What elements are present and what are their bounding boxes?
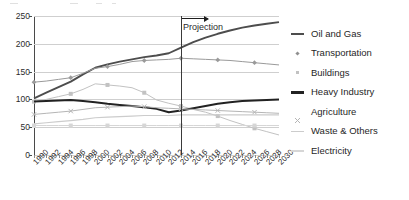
- y-tick-mark: [29, 16, 32, 17]
- series-line: [34, 106, 279, 114]
- y-tick-mark: [29, 99, 32, 100]
- legend-item-label: Electricity: [311, 146, 352, 156]
- y-tick-mark: [29, 155, 32, 156]
- legend-item-oil-and-gas[interactable]: Oil and Gas: [291, 24, 409, 44]
- series-marker: [68, 75, 73, 80]
- series-marker: [253, 124, 257, 128]
- legend-item-label: Transportation: [311, 48, 372, 58]
- y-tick-label: 50: [4, 123, 30, 131]
- y-tick-label: 0: [4, 151, 30, 159]
- legend-item-label: Buildings: [311, 68, 350, 78]
- y-axis-labels: 050100150200250: [0, 0, 30, 175]
- legend-swatch-icon: [291, 107, 304, 117]
- projection-arrow-icon: [182, 18, 208, 19]
- series-marker: [32, 80, 37, 85]
- series-marker: [69, 92, 73, 96]
- legend-item-transportation[interactable]: Transportation: [291, 44, 409, 64]
- legend-swatch-icon: [291, 48, 304, 58]
- series-marker: [142, 91, 146, 95]
- legend-item-agriculture[interactable]: Agriculture: [291, 102, 409, 122]
- series-marker: [216, 124, 220, 128]
- y-tick-mark: [29, 72, 32, 73]
- series-line: [34, 115, 279, 124]
- legend-swatch-icon: [291, 29, 304, 39]
- series-marker: [142, 124, 146, 128]
- legend-item-label: Waste & Others: [311, 126, 378, 136]
- top-crop-artifact: [0, 0, 409, 7]
- projection-divider: [181, 16, 182, 156]
- series-marker: [106, 124, 110, 128]
- legend-swatch-icon: [291, 87, 304, 97]
- series-layer: [34, 16, 279, 155]
- legend-item-heavy-industry[interactable]: Heavy Industry: [291, 83, 409, 103]
- projection-label: Projection: [183, 22, 223, 32]
- series-line: [34, 99, 279, 112]
- y-tick-label: 100: [4, 95, 30, 103]
- series-marker: [215, 58, 220, 63]
- legend-item-label: Heavy Industry: [311, 87, 374, 97]
- chart-legend: Oil and GasTransportationBuildingsHeavy …: [291, 24, 409, 161]
- legend-item-electricity[interactable]: Electricity: [291, 141, 409, 161]
- series-marker: [69, 124, 73, 128]
- legend-item-buildings[interactable]: Buildings: [291, 63, 409, 83]
- legend-item-label: Agriculture: [311, 107, 356, 117]
- y-tick-mark: [29, 127, 32, 128]
- plot-area: [34, 16, 279, 155]
- y-tick-label: 150: [4, 68, 30, 76]
- series-marker: [252, 60, 257, 65]
- legend-item-waste-others[interactable]: Waste & Others: [291, 122, 409, 142]
- legend-swatch-icon: [291, 126, 304, 136]
- y-tick-label: 250: [4, 12, 30, 20]
- legend-swatch-icon: [291, 68, 304, 78]
- legend-item-label: Oil and Gas: [311, 29, 361, 39]
- legend-swatch-icon: [291, 146, 304, 156]
- series-marker: [106, 83, 110, 87]
- series-marker: [32, 124, 36, 128]
- y-tick-label: 200: [4, 40, 30, 48]
- series-marker: [142, 58, 147, 63]
- chart-root: 050100150200250 Projection 1990199219941…: [0, 0, 409, 200]
- y-tick-mark: [29, 44, 32, 45]
